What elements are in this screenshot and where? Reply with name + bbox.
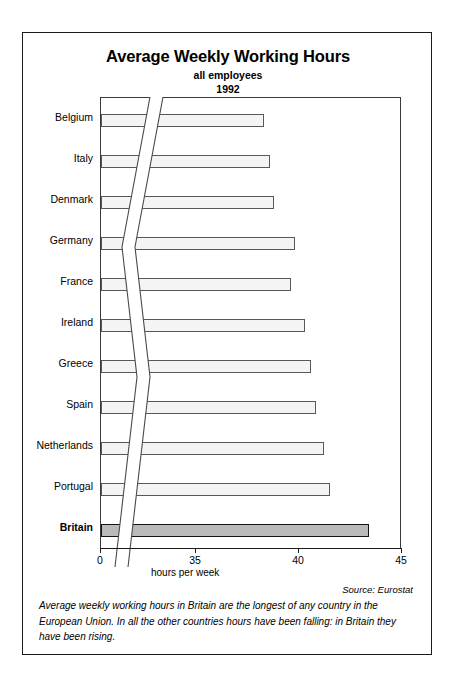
- category-label-portugal: Portugal: [23, 480, 93, 492]
- x-tick-label-0: 0: [97, 554, 103, 566]
- bar-row: [101, 223, 400, 264]
- x-tick-label-45: 45: [395, 554, 407, 566]
- bar-portugal: [101, 483, 330, 496]
- category-label-denmark: Denmark: [23, 193, 93, 205]
- bars-layer: [101, 98, 400, 548]
- bar-greece: [101, 360, 311, 373]
- bar-denmark: [101, 196, 274, 209]
- bar-row: [101, 305, 400, 346]
- bar-britain: [101, 524, 369, 537]
- category-label-france: France: [23, 275, 93, 287]
- bar-france: [101, 278, 291, 291]
- x-tick-mark-35: [195, 548, 196, 553]
- x-tick-label-40: 40: [292, 554, 304, 566]
- figure-caption: Average weekly working hours in Britain …: [39, 598, 417, 645]
- x-tick-mark-45: [401, 548, 402, 553]
- bar-netherlands: [101, 442, 324, 455]
- bar-ireland: [101, 319, 305, 332]
- category-label-germany: Germany: [23, 234, 93, 246]
- chart-year: 1992: [23, 83, 433, 95]
- plot-area: [100, 97, 401, 548]
- figure-frame: Average Weekly Working Hours all employe…: [22, 32, 432, 655]
- bar-germany: [101, 237, 295, 250]
- bar-row: [101, 264, 400, 305]
- bar-italy: [101, 155, 270, 168]
- bar-row: [101, 100, 400, 141]
- bar-row: [101, 387, 400, 428]
- bar-spain: [101, 401, 316, 414]
- bar-row: [101, 141, 400, 182]
- category-label-netherlands: Netherlands: [23, 439, 93, 451]
- category-label-spain: Spain: [23, 398, 93, 410]
- x-axis-title: hours per week: [151, 567, 219, 578]
- category-label-britain: Britain: [23, 521, 93, 533]
- bar-row: [101, 182, 400, 223]
- x-tick-mark-0: [100, 548, 101, 553]
- category-label-italy: Italy: [23, 152, 93, 164]
- category-label-ireland: Ireland: [23, 316, 93, 328]
- x-tick-mark-40: [298, 548, 299, 553]
- chart-title: Average Weekly Working Hours: [23, 47, 433, 66]
- bar-row: [101, 346, 400, 387]
- chart-subtitle: all employees: [23, 69, 433, 81]
- source-note: Source: Eurostat: [342, 584, 413, 595]
- bar-belgium: [101, 114, 264, 127]
- x-axis-line: [100, 548, 402, 549]
- bar-row: [101, 428, 400, 469]
- bar-row: [101, 510, 400, 551]
- category-label-belgium: Belgium: [23, 111, 93, 123]
- x-tick-label-35: 35: [189, 554, 201, 566]
- category-label-greece: Greece: [23, 357, 93, 369]
- bar-row: [101, 469, 400, 510]
